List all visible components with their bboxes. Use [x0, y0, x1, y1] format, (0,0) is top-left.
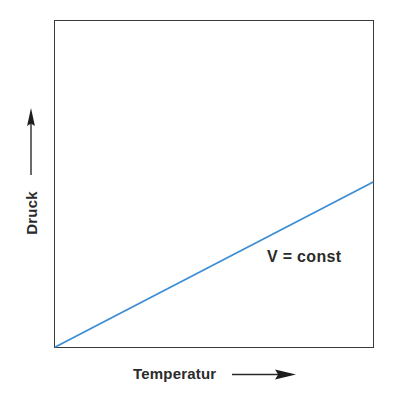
curve-annotation-v-const: V = const	[267, 248, 341, 266]
chart-figure: Druck Temperatur V = const	[0, 0, 395, 403]
x-axis-label: Temperatur	[133, 365, 216, 382]
y-axis-label: Druck	[23, 191, 40, 235]
arrow-right-icon	[232, 370, 296, 380]
plot-area-frame	[54, 20, 374, 348]
arrow-up-icon	[27, 108, 35, 175]
